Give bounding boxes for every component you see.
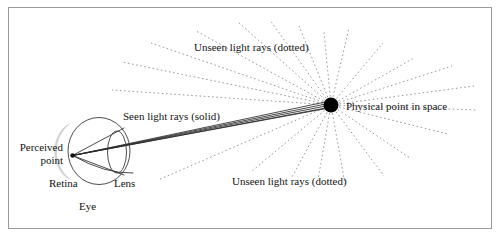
label-retina: Retina <box>49 177 78 189</box>
label-perceived-point-line2: point <box>40 154 63 166</box>
label-unseen-rays-bottom: Unseen light rays (dotted) <box>232 175 347 188</box>
label-physical-point: Physical point in space <box>346 100 447 112</box>
optics-ray-diagram: Unseen light rays (dotted) Seen light ra… <box>0 0 501 237</box>
label-unseen-rays-top: Unseen light rays (dotted) <box>194 41 309 54</box>
label-seen-rays: Seen light rays (solid) <box>123 110 220 123</box>
perceived-point-marker <box>70 153 74 157</box>
label-perceived-point-line1: Perceived <box>20 141 64 153</box>
label-lens: Lens <box>114 177 135 189</box>
label-eye: Eye <box>79 200 96 212</box>
physical-point-marker <box>324 98 339 113</box>
figure-root: Unseen light rays (dotted) Seen light ra… <box>0 0 501 237</box>
